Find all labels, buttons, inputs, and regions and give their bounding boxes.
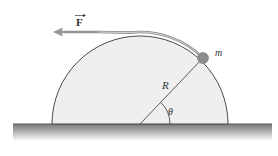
mass-ball <box>198 53 209 64</box>
diagram-canvas: F m R θ <box>0 0 278 156</box>
mass-label: m <box>215 47 222 58</box>
half-cylinder <box>52 36 228 124</box>
force-vector-arrow-icon-head <box>83 14 86 17</box>
ground <box>13 124 272 141</box>
angle-label: θ <box>168 106 173 117</box>
radius-label: R <box>161 79 169 91</box>
force-label: F <box>76 16 83 28</box>
